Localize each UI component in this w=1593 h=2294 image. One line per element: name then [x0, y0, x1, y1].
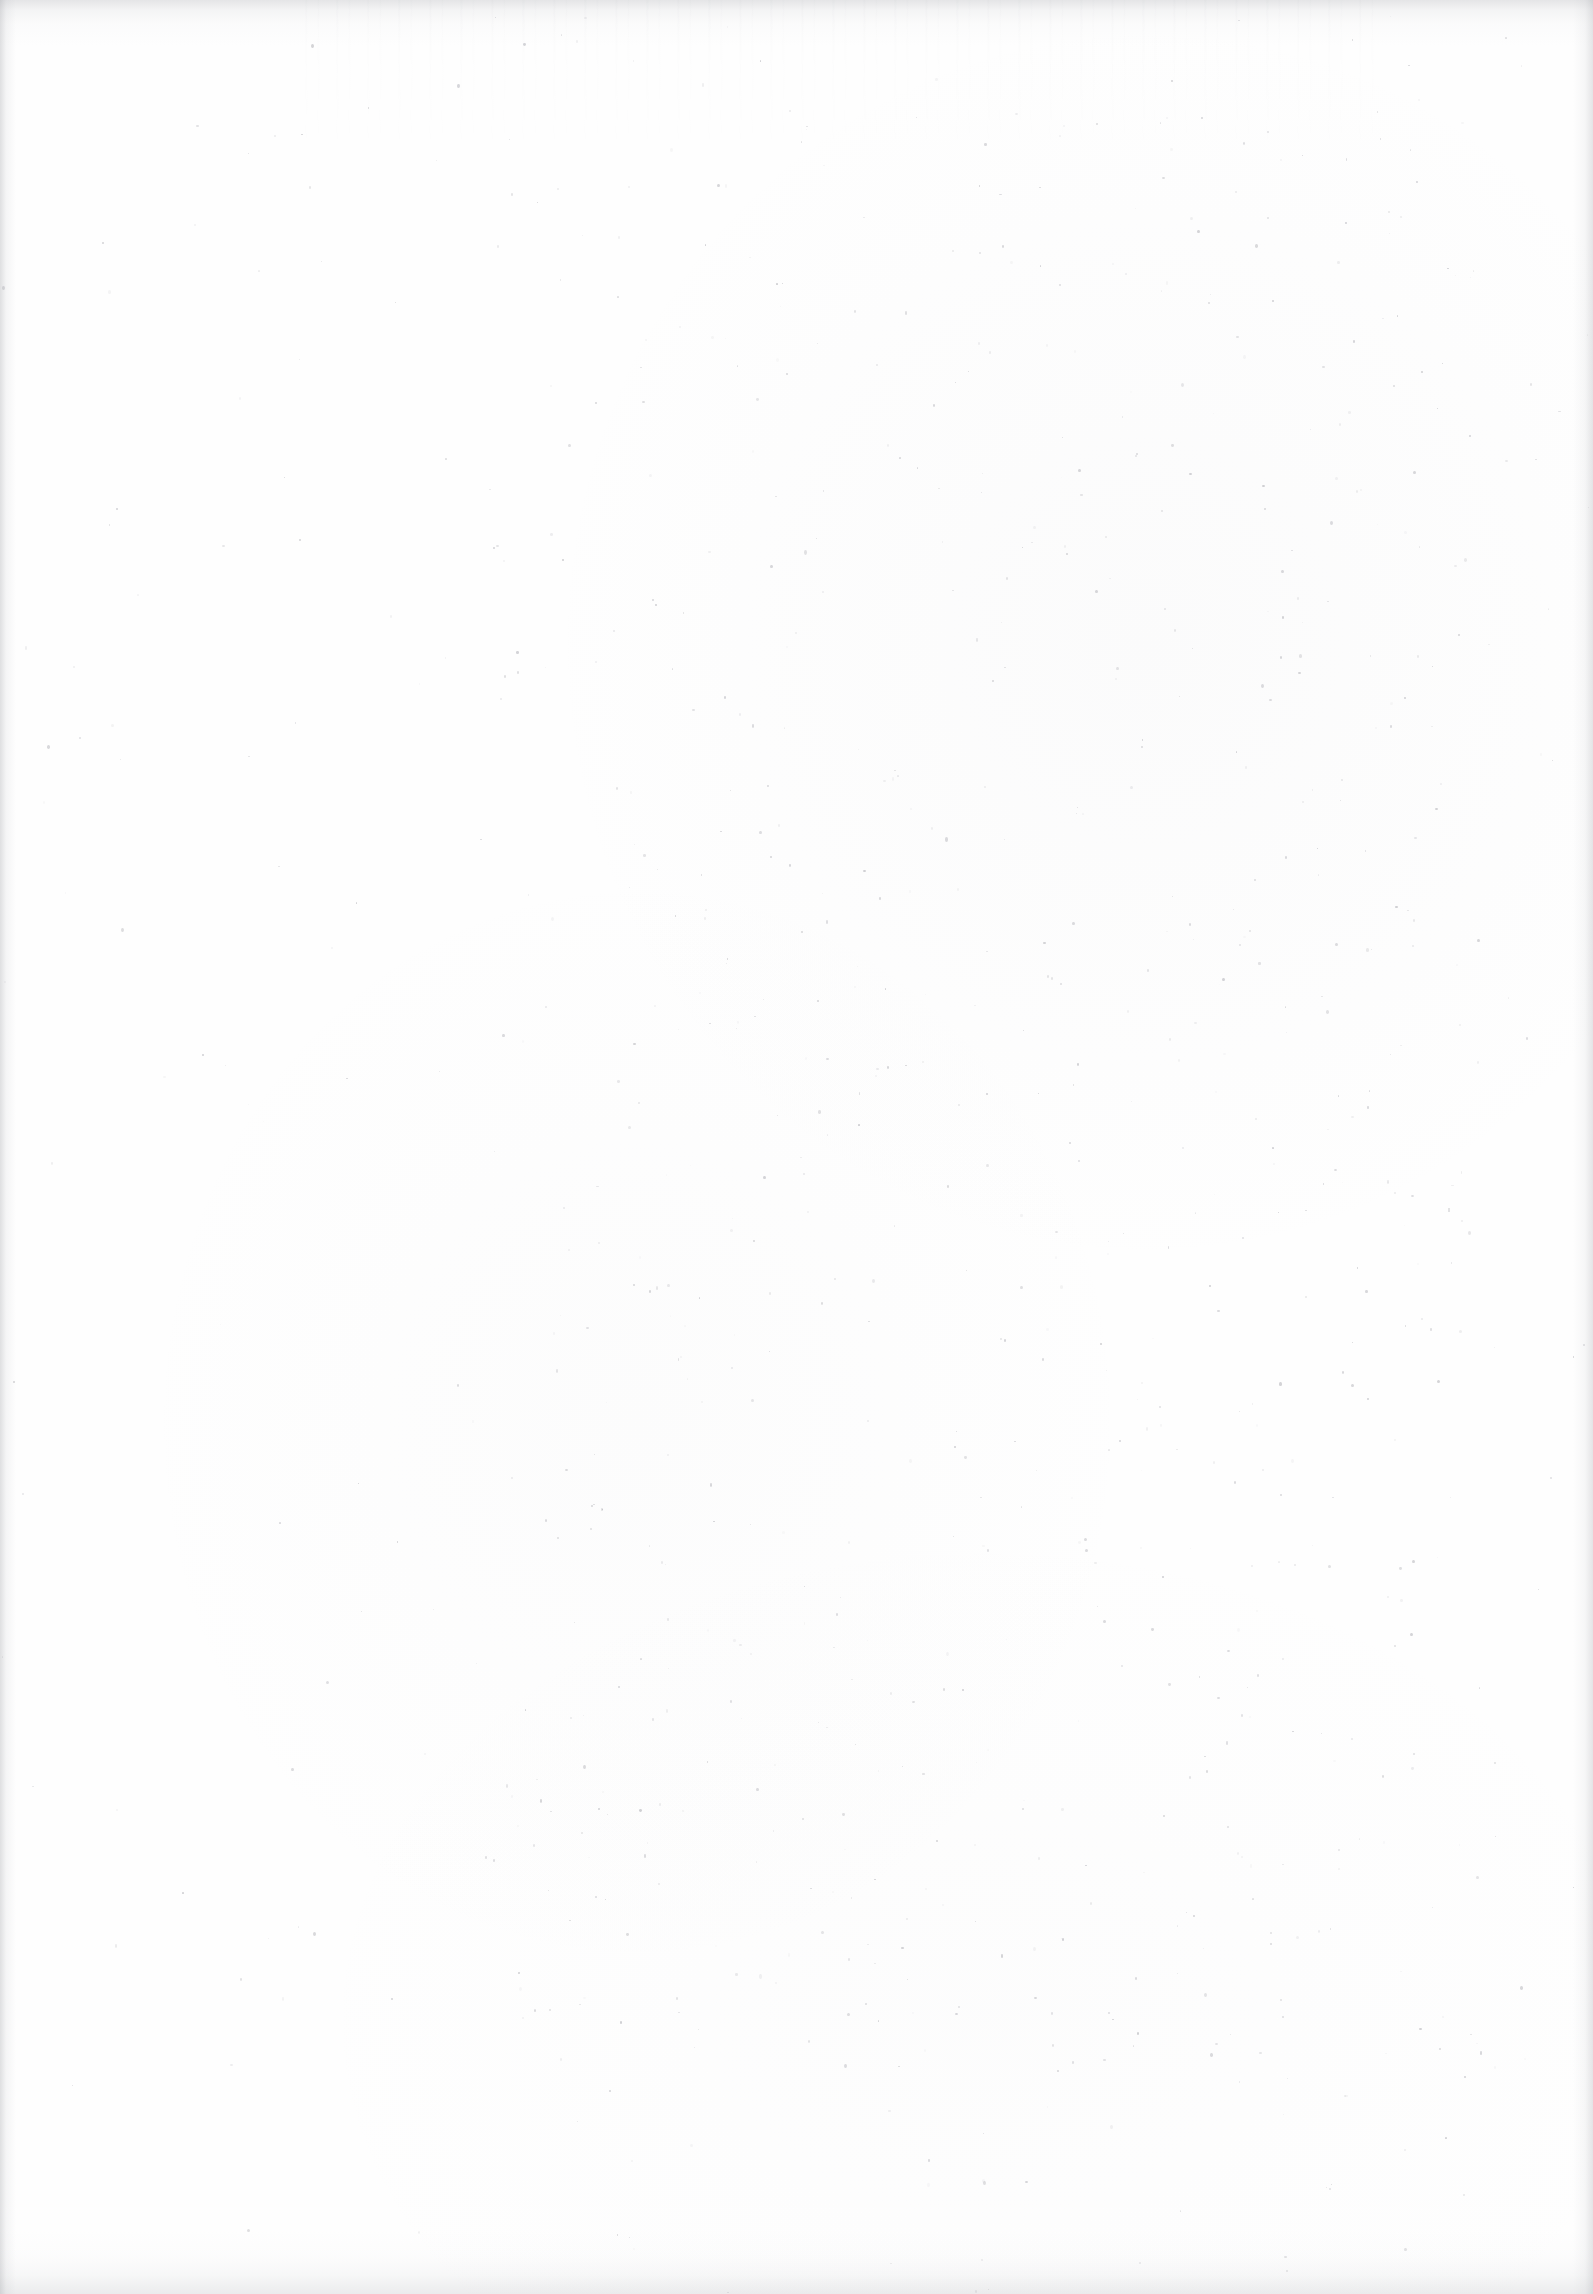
- bottom-edge-shadow: [0, 2230, 1593, 2294]
- left-edge-shadow: [0, 0, 16, 2294]
- right-edge-shadow: [1573, 0, 1593, 2294]
- page-content-area: [150, 170, 1440, 2130]
- scanned-page: [0, 0, 1593, 2294]
- top-edge-streak-artifact: [300, 0, 1380, 150]
- top-edge-shadow: [0, 0, 1593, 46]
